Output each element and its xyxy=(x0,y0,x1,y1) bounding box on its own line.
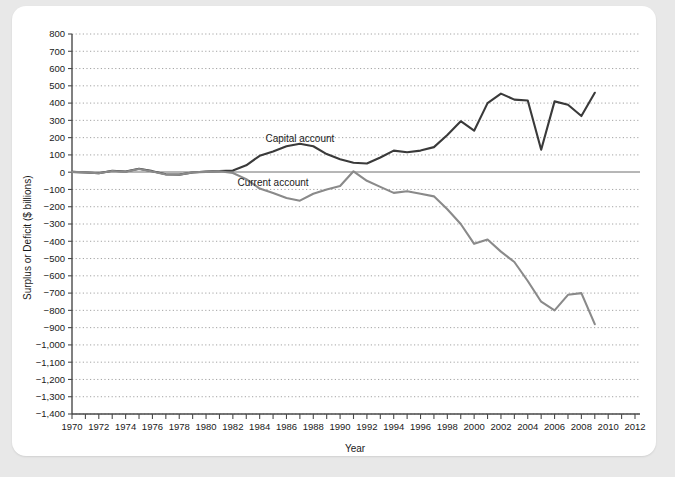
y-axis-tick-label: 700 xyxy=(49,46,65,57)
y-axis-tick-label: −1,400 xyxy=(36,408,65,419)
y-axis-title: Surplus or Deficit ($ billions) xyxy=(22,176,33,301)
x-axis-tick-label: 1990 xyxy=(330,421,351,432)
y-axis-tick-label: −900 xyxy=(44,322,65,333)
x-axis-tick-label: 1974 xyxy=(115,421,136,432)
y-axis-tick-label: 0 xyxy=(60,167,65,178)
x-axis-title: Year xyxy=(345,443,366,454)
y-axis-tick-label: 600 xyxy=(49,63,65,74)
y-axis-tick-labels-group: 8007006005004003002001000−100−200−300−40… xyxy=(36,28,65,419)
y-axis-tick-label: 300 xyxy=(49,115,65,126)
y-axis-tick-label: −200 xyxy=(44,201,65,212)
x-axis-tick-label: 2012 xyxy=(624,421,645,432)
x-axis-tick-label: 2002 xyxy=(490,421,511,432)
x-axis-tick-label: 1986 xyxy=(276,421,297,432)
series-line-current-account xyxy=(72,169,595,324)
y-axis-tick-label: 100 xyxy=(49,149,65,160)
x-axis-tick-label: 1988 xyxy=(303,421,324,432)
x-axis-tick-label: 1972 xyxy=(88,421,109,432)
x-axis-tick-label: 1984 xyxy=(249,421,270,432)
y-axis-tick-label: −800 xyxy=(44,305,65,316)
y-axis-tick-label: −700 xyxy=(44,287,65,298)
y-axis-tick-label: −500 xyxy=(44,253,65,264)
x-axis-tick-label: 1994 xyxy=(383,421,404,432)
y-axis-tick-label: 500 xyxy=(49,80,65,91)
y-axis-tick-label: −1,300 xyxy=(36,391,65,402)
x-axis-tick-labels-group: 1970197219741976197819801982198419861988… xyxy=(61,421,645,432)
x-axis-tick-label: 1978 xyxy=(169,421,190,432)
series-label-current-account: Current account xyxy=(237,177,308,188)
chart-svg: 8007006005004003002001000−100−200−300−40… xyxy=(0,0,675,477)
x-axis-tick-label: 1998 xyxy=(437,421,458,432)
balance-of-payments-chart: 8007006005004003002001000−100−200−300−40… xyxy=(0,0,675,477)
x-axis-tick-label: 1980 xyxy=(195,421,216,432)
x-axis-tick-label: 2008 xyxy=(571,421,592,432)
y-axis-tick-label: −600 xyxy=(44,270,65,281)
y-axis-tick-label: −300 xyxy=(44,218,65,229)
x-axis-tick-label: 1992 xyxy=(356,421,377,432)
y-axis-tick-label: −1,200 xyxy=(36,374,65,385)
gridlines-group xyxy=(72,34,640,414)
x-axis-tick-label: 1976 xyxy=(142,421,163,432)
data-series-group xyxy=(72,93,595,324)
x-axis-tick-label: 2010 xyxy=(598,421,619,432)
x-axis-ticks-group xyxy=(72,414,635,419)
y-axis-tick-label: 800 xyxy=(49,28,65,39)
y-axis-tick-label: −400 xyxy=(44,236,65,247)
y-axis-tick-label: 200 xyxy=(49,132,65,143)
y-axis-tick-label: −100 xyxy=(44,184,65,195)
series-label-capital-account: Capital account xyxy=(265,133,334,144)
y-axis-tick-label: 400 xyxy=(49,97,65,108)
y-axis-tick-label: −1,100 xyxy=(36,357,65,368)
x-axis-tick-label: 1970 xyxy=(61,421,82,432)
x-axis-tick-label: 2000 xyxy=(464,421,485,432)
x-axis-tick-label: 2006 xyxy=(544,421,565,432)
x-axis-tick-label: 1996 xyxy=(410,421,431,432)
x-axis-tick-label: 1982 xyxy=(222,421,243,432)
y-axis-tick-label: −1,000 xyxy=(36,339,65,350)
x-axis-tick-label: 2004 xyxy=(517,421,538,432)
